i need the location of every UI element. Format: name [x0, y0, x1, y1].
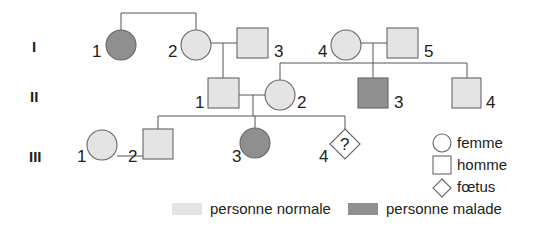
female-normal-symbol: [331, 30, 361, 60]
legend-affected-label: personne malade: [386, 200, 502, 217]
legend-male-label: homme: [457, 156, 507, 173]
individual-III-3: 3: [232, 128, 270, 166]
individual-II-1: 1: [195, 78, 239, 112]
individual-I-1: 1: [92, 30, 136, 61]
legend-fetus-label: fœtus: [457, 178, 495, 195]
legend-female-icon: [433, 134, 451, 152]
female-affected-symbol: [106, 30, 136, 60]
female-normal-symbol: [87, 130, 117, 160]
individual-I-5: 5: [387, 28, 433, 61]
individual-number: 4: [486, 93, 495, 112]
legend-normal-label: personne normale: [210, 200, 331, 217]
legend-male-icon: [433, 156, 451, 174]
female-normal-symbol: [265, 80, 295, 110]
legend-fetus-icon: [433, 179, 451, 197]
male-affected-symbol: [358, 78, 388, 108]
legend-female-label: femme: [457, 134, 503, 151]
legend-normal-swatch: [172, 203, 202, 215]
unknown-status-mark: ?: [340, 135, 349, 154]
female-affected-symbol: [240, 128, 270, 158]
generation-label-III: III: [29, 148, 42, 165]
individual-number: 3: [394, 93, 403, 112]
individual-III-4: ? 4: [319, 129, 360, 166]
individual-number: 2: [128, 147, 137, 166]
legend-affected-swatch: [348, 203, 378, 215]
individual-III-1: 1: [77, 130, 117, 166]
individual-number: 1: [77, 147, 86, 166]
individual-number: 3: [274, 42, 283, 61]
individual-number: 2: [297, 93, 306, 112]
individual-number: 3: [232, 147, 241, 166]
individual-number: 2: [168, 42, 177, 61]
individual-I-4: 4: [318, 30, 361, 61]
individual-II-4: 4: [452, 78, 495, 112]
male-normal-symbol: [208, 78, 239, 108]
female-normal-symbol: [181, 30, 211, 60]
individual-number: 4: [318, 42, 327, 61]
individual-number: 1: [195, 93, 204, 112]
male-normal-symbol: [143, 129, 173, 159]
male-normal-symbol: [387, 28, 418, 58]
pedigree-chart: I II III 1 2 3: [0, 0, 541, 234]
male-normal-symbol: [237, 28, 268, 58]
generation-label-II: II: [30, 88, 38, 105]
individual-number: 5: [424, 42, 433, 61]
individual-number: 4: [319, 147, 328, 166]
individual-I-2: 2: [168, 30, 211, 61]
individual-number: 1: [92, 42, 101, 61]
individual-III-2: 2: [128, 129, 173, 166]
generation-label-I: I: [32, 38, 36, 55]
individual-II-2: 2: [265, 80, 306, 112]
individual-I-3: 3: [237, 28, 283, 61]
male-normal-symbol: [452, 78, 481, 108]
individual-II-3: 3: [358, 78, 403, 112]
